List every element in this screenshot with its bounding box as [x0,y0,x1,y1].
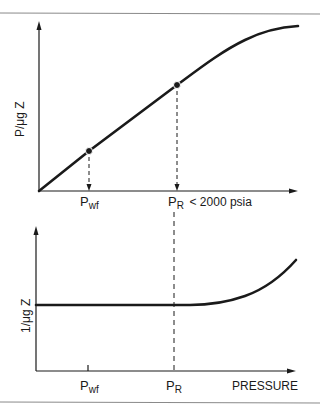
pwf-main: P [80,194,89,209]
top-y-axis-arrow-icon [37,21,42,30]
bottom-pr-label: PR [166,379,182,395]
pwf-sub: wf [89,384,99,395]
pr-main: P [168,194,177,209]
pwf-marker [86,148,93,155]
pr-marker [174,82,181,89]
pr-sub: R [177,200,184,211]
pwf-main: P [80,378,89,393]
bottom-y-axis-arrow-icon [34,226,39,235]
bottom-y-axis-label: 1/μg Z [20,299,32,333]
pwf-drop-arrow-icon [87,184,92,191]
pwf-sub: wf [89,200,99,211]
top-panel [37,21,299,194]
figure: P/μg Z Pwf PR < 2000 psia 1/μg Z Pwf PR … [0,0,320,411]
pr-drop-arrow-icon [175,184,180,191]
top-border-rule [0,13,320,14]
bottom-x-axis-arrow-icon [287,369,296,374]
top-y-axis-label: P/μg Z [14,101,26,137]
chart-canvas [0,0,320,411]
pr-suffix: < 2000 psia [190,195,252,209]
top-pr-label: PR < 2000 psia [168,195,252,211]
pr-main: P [166,378,175,393]
bottom-curve [36,260,296,305]
top-pwf-label: Pwf [80,195,99,211]
bottom-panel [34,212,297,374]
bottom-pwf-label: Pwf [80,379,99,395]
x-axis-label-pressure: PRESSURE [232,380,298,392]
top-curve [39,26,298,191]
bottom-border-rule [0,402,320,403]
top-x-axis-arrow-icon [289,189,298,194]
pr-sub: R [175,384,182,395]
